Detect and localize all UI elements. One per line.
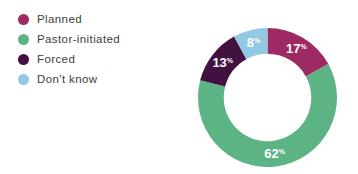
infographic-donut-chart: Planned Pastor-initiated Forced Don't kn… (0, 0, 358, 174)
legend-swatch-dont-know-icon (18, 74, 29, 85)
legend-item-forced: Forced (18, 49, 120, 69)
legend-item-pastor-initiated: Pastor-initiated (18, 29, 120, 49)
donut-chart-svg: 17%62%13%8% (197, 27, 338, 168)
legend-item-dont-know: Don't know (18, 69, 120, 89)
legend-label-forced: Forced (37, 53, 75, 65)
legend-label-planned: Planned (37, 13, 82, 25)
legend-swatch-planned-icon (18, 14, 29, 25)
legend-label-pastor-initiated: Pastor-initiated (37, 33, 120, 45)
chart-legend: Planned Pastor-initiated Forced Don't kn… (18, 9, 120, 89)
donut-chart: 17%62%13%8% (197, 27, 338, 168)
legend-swatch-forced-icon (18, 54, 29, 65)
legend-item-planned: Planned (18, 9, 120, 29)
legend-swatch-pastor-initiated-icon (18, 34, 29, 45)
legend-label-dont-know: Don't know (37, 73, 98, 85)
